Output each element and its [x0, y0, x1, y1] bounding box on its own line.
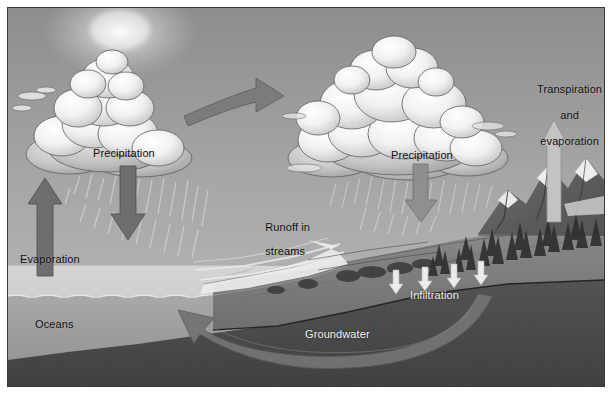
infiltration-arrow-1	[389, 270, 403, 294]
label-transpiration-line3: evaporation	[540, 135, 599, 147]
label-evaporation: Evaporation	[20, 253, 80, 265]
label-runoff-in-streams: Runoff in streams	[240, 209, 310, 269]
label-precipitation-right: Precipitation	[391, 149, 453, 161]
diagram-scene: Precipitation Precipitation Transpiratio…	[8, 8, 604, 386]
label-runoff-line2: streams	[265, 245, 305, 257]
transport-arrow	[184, 78, 284, 126]
infiltration-arrow-3	[447, 264, 461, 288]
label-runoff-line1: Runoff in	[265, 221, 310, 233]
label-groundwater: Groundwater	[305, 328, 370, 340]
precipitation-arrow-right	[405, 164, 437, 222]
label-oceans: Oceans	[35, 318, 74, 330]
label-infiltration: Infiltration	[410, 289, 459, 301]
figure-frame: Precipitation Precipitation Transpiratio…	[7, 7, 605, 387]
label-transpiration-line1: Transpiration	[537, 83, 602, 95]
label-transpiration-line2: and	[560, 109, 579, 121]
infiltration-arrow-2	[418, 267, 432, 291]
water-cycle-figure: Precipitation Precipitation Transpiratio…	[0, 0, 612, 394]
label-transpiration-evaporation: Transpiration and evaporation	[508, 70, 604, 161]
label-precipitation-left: Precipitation	[93, 147, 155, 159]
precipitation-arrow-left	[111, 166, 145, 240]
infiltration-arrow-4	[474, 261, 488, 285]
